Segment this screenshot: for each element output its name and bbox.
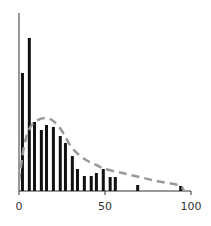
histogram-bar: [33, 122, 36, 191]
histogram-bar: [109, 177, 112, 191]
histogram-bar: [21, 73, 24, 191]
x-tick-label: 50: [98, 200, 112, 213]
histogram-bar: [102, 169, 105, 191]
histogram-bar: [76, 169, 79, 191]
histogram-bar: [136, 185, 139, 191]
histogram-bar: [71, 156, 74, 191]
x-axis: 050100: [16, 191, 202, 213]
x-tick-label: 100: [181, 200, 202, 213]
histogram-bars: [21, 38, 182, 191]
histogram-chart: 050100: [0, 0, 211, 226]
histogram-bar: [64, 143, 67, 191]
histogram-bar: [83, 176, 86, 191]
x-tick-label: 0: [16, 200, 23, 213]
histogram-bar: [40, 130, 43, 191]
histogram-bar: [114, 177, 117, 191]
histogram-bar: [28, 38, 31, 191]
histogram-bar: [52, 127, 55, 191]
histogram-bar: [90, 176, 93, 191]
histogram-bar: [59, 136, 62, 191]
histogram-bar: [45, 125, 48, 191]
fitted-curve-line: [19, 118, 184, 191]
histogram-bar: [95, 173, 98, 191]
